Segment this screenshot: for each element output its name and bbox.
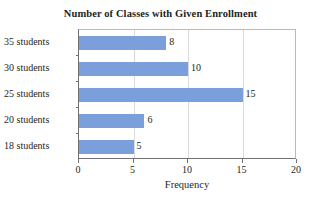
- bar: [79, 114, 144, 128]
- x-axis-tick-label: 20: [291, 164, 301, 175]
- y-axis-tick-label: 35 students: [4, 35, 76, 49]
- bar: [79, 140, 134, 154]
- y-axis-tick-label: 30 students: [4, 61, 76, 75]
- bar: [79, 36, 166, 50]
- plot-inner: [79, 30, 295, 158]
- y-axis-tick-label: 25 students: [4, 87, 76, 101]
- x-axis-tick-mark: [187, 159, 188, 163]
- bar: [79, 62, 188, 76]
- bar-value-label: 10: [191, 61, 201, 75]
- y-axis-tick-label: 18 students: [4, 139, 76, 153]
- gridline: [243, 30, 244, 158]
- x-axis-title: Frequency: [78, 179, 296, 190]
- y-axis-labels: 18 students20 students25 students30 stud…: [4, 29, 76, 159]
- x-axis-tick-label: 5: [130, 164, 135, 175]
- plot-area: [78, 29, 296, 159]
- y-axis-tick-label: 20 students: [4, 113, 76, 127]
- x-axis-tick-label: 15: [237, 164, 247, 175]
- bar-value-label: 15: [246, 87, 256, 101]
- bar-value-label: 5: [137, 139, 142, 153]
- x-axis-tick-label: 10: [182, 164, 192, 175]
- x-axis-tick-label: 0: [76, 164, 81, 175]
- chart-title: Number of Classes with Given Enrollment: [0, 8, 321, 19]
- bar: [79, 88, 243, 102]
- bar-value-label: 6: [147, 113, 152, 127]
- bar-value-label: 8: [169, 35, 174, 49]
- x-axis-tick-mark: [78, 159, 79, 163]
- x-axis-tick-mark: [242, 159, 243, 163]
- bar-chart-figure: Number of Classes with Given Enrollment …: [0, 0, 321, 201]
- x-axis-tick-mark: [133, 159, 134, 163]
- x-axis-tick-mark: [296, 159, 297, 163]
